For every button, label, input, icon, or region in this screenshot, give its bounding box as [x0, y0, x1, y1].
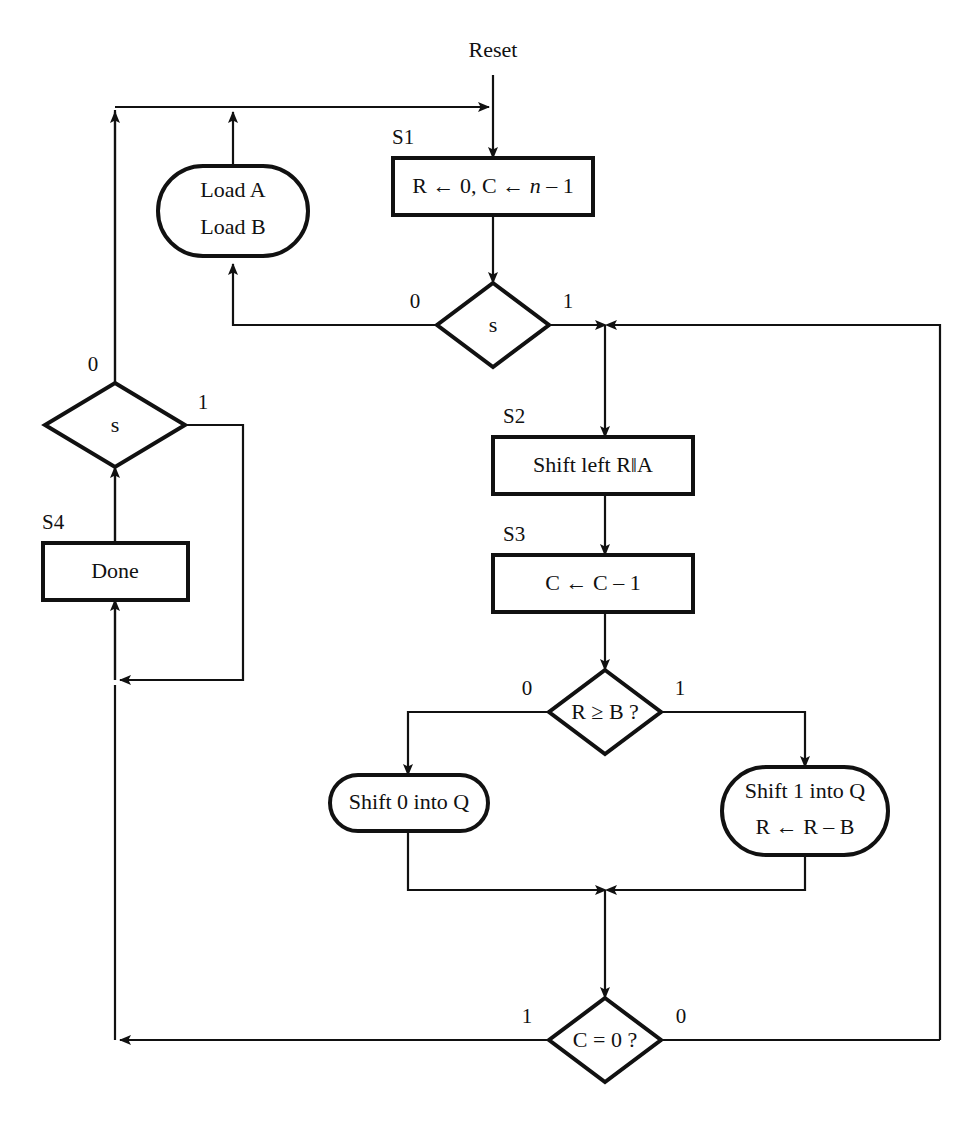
entry-label-reset: Reset [469, 37, 518, 62]
node-s-top-label: s [489, 312, 498, 337]
node-s1-text-pre: R ← 0, C ← [412, 173, 529, 198]
node-load-label-line1: Load A [200, 177, 265, 202]
node-c0-decision[interactable]: C = 0 ? 1 0 [522, 998, 687, 1082]
edge-shift0-to-merge [408, 831, 601, 890]
flowchart-svg: Reset S1 R ← 0, C ← n – 1 Load A Load B … [0, 0, 974, 1132]
state-label-s1: S1 [392, 125, 414, 149]
edge-shift1-to-merge [611, 855, 805, 890]
node-shift0-label: Shift 0 into Q [349, 789, 470, 814]
state-label-s4: S4 [42, 510, 65, 534]
node-s2-label: Shift left R‖A [533, 452, 653, 477]
edge-s-top-zero-to-load [233, 264, 437, 325]
node-s-left-label: s [111, 412, 120, 437]
node-shift0[interactable]: Shift 0 into Q [330, 775, 488, 831]
edge-label-s-left-one: 1 [198, 390, 209, 414]
node-s3-label: C ← C – 1 [545, 570, 640, 595]
node-s2[interactable]: S2 Shift left R‖A [493, 404, 693, 494]
edge-rb-zero-to-shift0 [408, 712, 549, 775]
node-load-label-line2: Load B [200, 214, 265, 239]
edge-label-rb-one: 1 [675, 676, 686, 700]
node-shift1[interactable]: Shift 1 into Q R ← R – B [722, 767, 888, 855]
node-c0-label: C = 0 ? [573, 1027, 637, 1052]
node-shift1-label-line1: Shift 1 into Q [745, 778, 866, 803]
edge-c0-zero-return-bus [611, 325, 940, 1040]
node-s1-label: R ← 0, C ← n – 1 [412, 173, 573, 198]
node-s1-text-post: – 1 [541, 173, 574, 198]
node-s4-label: Done [91, 558, 139, 583]
node-rb-label: R ≥ B ? [571, 699, 639, 724]
edge-label-s-left-zero: 0 [88, 352, 99, 376]
state-label-s2: S2 [503, 404, 525, 428]
edge-label-s-top-zero: 0 [410, 289, 421, 313]
edge-label-rb-zero: 0 [522, 676, 533, 700]
flowchart-canvas: Reset S1 R ← 0, C ← n – 1 Load A Load B … [0, 0, 974, 1132]
node-s1-text-italic: n [530, 173, 541, 198]
edge-label-s-top-one: 1 [563, 289, 574, 313]
edge-label-c0-one: 1 [522, 1004, 533, 1028]
edge-label-c0-zero: 0 [676, 1004, 687, 1028]
edge-rb-one-to-shift1 [661, 712, 805, 767]
node-shift1-label-line2: R ← R – B [755, 814, 854, 839]
node-load[interactable]: Load A Load B [158, 166, 308, 256]
state-label-s3: S3 [503, 522, 525, 546]
node-s-top-decision[interactable]: s 0 1 [410, 283, 574, 367]
node-s-left-decision[interactable]: s 0 1 [45, 352, 208, 467]
node-rb-decision[interactable]: R ≥ B ? 0 1 [522, 670, 686, 754]
node-s3[interactable]: S3 C ← C – 1 [493, 522, 693, 612]
